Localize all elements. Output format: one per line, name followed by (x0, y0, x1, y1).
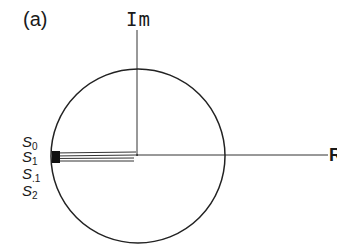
real-axis-label: R (329, 145, 337, 166)
state-vectors (53, 152, 136, 161)
argand-diagram (0, 0, 354, 252)
panel-label: (a) (23, 8, 47, 31)
vector-tip-block (52, 151, 60, 163)
imaginary-axis-label: Im (126, 8, 151, 30)
origin-marker (136, 154, 138, 156)
state-label-s2: S2 (22, 183, 38, 203)
